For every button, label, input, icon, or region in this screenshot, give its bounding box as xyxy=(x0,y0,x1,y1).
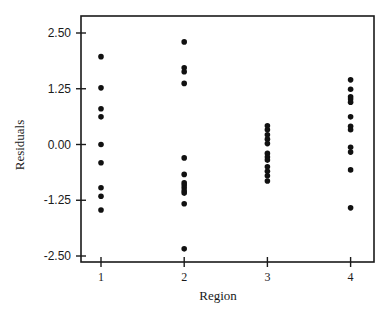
x-axis-title: Region xyxy=(199,288,237,303)
data-point xyxy=(98,207,104,213)
data-point xyxy=(348,86,354,92)
data-point xyxy=(348,149,354,155)
y-tick-label: 0.00 xyxy=(48,138,72,152)
data-point xyxy=(98,54,104,60)
data-point xyxy=(98,85,104,91)
data-point xyxy=(98,114,104,120)
data-point xyxy=(98,106,104,112)
x-tick-label: 3 xyxy=(264,270,270,284)
y-axis-ticks: 2.501.250.00-1.25-2.50 xyxy=(44,26,86,263)
data-point xyxy=(348,144,354,150)
data-point xyxy=(348,127,354,133)
data-point xyxy=(265,178,271,184)
x-tick-label: 2 xyxy=(181,270,187,284)
data-point xyxy=(181,69,187,75)
residual-scatter-plot: 2.501.250.00-1.25-2.50 1234 Residuals Re… xyxy=(0,0,392,318)
data-point xyxy=(265,173,271,179)
data-point xyxy=(181,155,187,161)
y-tick-label: -2.50 xyxy=(44,249,72,263)
y-axis-title: Residuals xyxy=(12,120,27,171)
y-tick-label: 2.50 xyxy=(48,26,72,40)
y-tick-label: -1.25 xyxy=(44,193,72,207)
data-point xyxy=(181,246,187,252)
data-point xyxy=(98,193,104,199)
x-tick-label: 1 xyxy=(98,270,104,284)
data-point xyxy=(348,205,354,211)
data-point xyxy=(181,201,187,207)
data-point xyxy=(181,172,187,178)
data-point xyxy=(98,142,104,148)
x-axis-ticks: 1234 xyxy=(98,257,354,284)
x-tick-label: 4 xyxy=(348,270,354,284)
data-point xyxy=(181,39,187,45)
data-point xyxy=(181,81,187,87)
plot-frame xyxy=(81,16,374,262)
data-point xyxy=(181,190,187,196)
data-point xyxy=(98,185,104,191)
data-point xyxy=(265,157,271,163)
data-point xyxy=(348,77,354,83)
y-tick-label: 1.25 xyxy=(48,82,72,96)
data-point xyxy=(98,160,104,166)
data-point xyxy=(348,99,354,105)
data-points xyxy=(98,39,353,252)
data-point xyxy=(348,167,354,173)
data-point xyxy=(348,114,354,120)
data-point xyxy=(265,127,271,133)
data-point xyxy=(265,141,271,147)
